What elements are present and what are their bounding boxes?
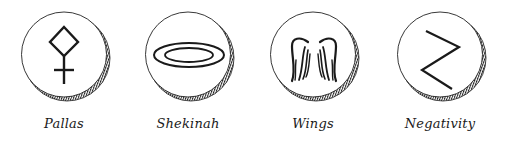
coin-pallas — [1, 0, 127, 114]
symbol-label: Shekinah — [125, 116, 251, 131]
symbol-card-wings: Wings — [250, 0, 376, 144]
symbol-label: Negativity — [377, 116, 503, 131]
symbol-label: Wings — [250, 116, 376, 131]
symbol-card-pallas: Pallas — [1, 0, 127, 144]
coin-shekinah — [125, 0, 251, 114]
coin-wings — [250, 0, 376, 114]
coin-negativity — [377, 0, 503, 114]
symbol-label: Pallas — [1, 116, 127, 131]
symbol-card-shekinah: Shekinah — [125, 0, 251, 144]
symbol-card-negativity: Negativity — [377, 0, 503, 144]
